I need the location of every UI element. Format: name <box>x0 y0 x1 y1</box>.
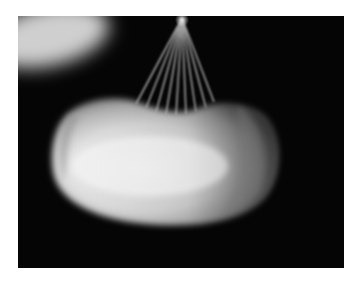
bean-object <box>52 99 278 225</box>
photograph <box>18 16 344 268</box>
photo-frame <box>18 16 344 268</box>
suspension-strings <box>136 18 214 115</box>
blurred-foreground-object <box>18 16 115 78</box>
string-knot <box>175 16 189 27</box>
